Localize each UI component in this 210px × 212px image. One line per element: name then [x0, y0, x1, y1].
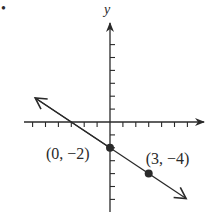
line-series-left-arrow	[35, 98, 110, 148]
data-points: (0, −2)(3, −4)	[46, 144, 189, 178]
data-point	[106, 144, 114, 152]
axes	[24, 23, 204, 212]
data-point	[145, 170, 153, 178]
y-axis-label: y	[102, 2, 111, 17]
coordinate-plot: (0, −2)(3, −4) y	[0, 0, 210, 212]
point-label: (3, −4)	[146, 150, 190, 168]
point-label: (0, −2)	[46, 145, 90, 163]
